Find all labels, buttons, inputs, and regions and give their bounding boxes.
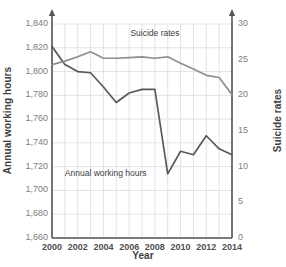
series-annotation-annual-working-hours: Annual working hours	[65, 168, 147, 178]
chart-container: Annual working hours Suicide rates Year …	[0, 0, 286, 267]
plot-svg	[0, 0, 286, 267]
series-annotation-suicide-rates: Suicide rates	[130, 28, 179, 38]
